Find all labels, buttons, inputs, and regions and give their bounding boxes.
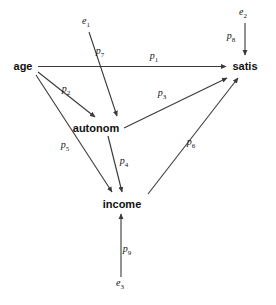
coef-p5-subscript: 5: [66, 145, 70, 153]
coef-p7-subscript: 7: [101, 51, 105, 59]
path-diagram-svg: age autonom income satis e1 e2 e3 p1 p2: [0, 0, 276, 305]
node-label-group: age autonom income satis: [14, 60, 258, 210]
error-label-group: e1 e2 e3: [82, 6, 247, 291]
path-diagram-canvas: age autonom income satis e1 e2 e3 p1 p2: [0, 0, 276, 305]
error-term-e3: e3: [116, 277, 124, 291]
coef-p9-subscript: 9: [128, 249, 132, 257]
error-e2-subscript: 2: [243, 12, 247, 20]
coef-p3-subscript: 3: [163, 93, 167, 101]
path-coefficient-p3: p3: [157, 87, 167, 101]
error-e3-subscript: 3: [120, 283, 124, 291]
coef-p2-subscript: 2: [67, 89, 71, 97]
node-income: income: [103, 198, 142, 210]
path-coefficient-p8: p8: [226, 30, 236, 44]
node-satis: satis: [232, 60, 257, 72]
coef-p1-subscript: 1: [155, 56, 159, 64]
error-e1-subscript: 1: [86, 21, 90, 29]
path-coefficient-group: p1 p2 p3 p4 p5 p6 p7 p8: [60, 30, 236, 257]
node-age: age: [14, 60, 33, 72]
path-coefficient-p5: p5: [60, 139, 70, 153]
path-coefficient-p9: p9: [122, 243, 132, 257]
error-term-e2: e2: [239, 6, 247, 20]
node-autonom: autonom: [73, 122, 120, 134]
path-coefficient-p1: p1: [149, 50, 159, 64]
coef-p4-subscript: 4: [125, 161, 129, 169]
path-coefficient-p7: p7: [95, 45, 105, 59]
edge-autonom-to-satis: [124, 78, 227, 128]
edge-e1-to-autonom: [89, 32, 117, 116]
error-term-e1: e1: [82, 15, 90, 29]
path-coefficient-p6: p6: [186, 136, 196, 150]
path-coefficient-p4: p4: [119, 155, 129, 169]
coef-p8-subscript: 8: [232, 36, 236, 44]
coef-p6-subscript: 6: [192, 142, 196, 150]
